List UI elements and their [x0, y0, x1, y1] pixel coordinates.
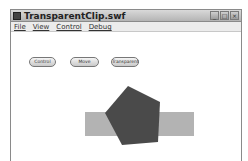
flash-app-icon: [13, 12, 21, 20]
menu-debug[interactable]: Debug: [89, 22, 112, 31]
menu-file[interactable]: File: [14, 22, 26, 31]
flash-stage: Control Move Transparent: [11, 33, 241, 161]
menu-control[interactable]: Control: [56, 22, 81, 31]
dark-pentagon[interactable]: [105, 86, 160, 145]
minimize-button[interactable]: _: [210, 11, 219, 20]
close-button[interactable]: ×: [230, 11, 239, 20]
window-title: TransparentClip.swf: [24, 10, 125, 22]
maximize-button[interactable]: □: [220, 11, 229, 20]
app-window: TransparentClip.swf _ □ × File View Cont…: [10, 9, 242, 161]
menu-bar: File View Control Debug: [11, 22, 241, 32]
title-bar[interactable]: TransparentClip.swf _ □ ×: [10, 9, 242, 22]
shapes-canvas: [11, 33, 241, 161]
menu-view[interactable]: View: [33, 22, 50, 31]
